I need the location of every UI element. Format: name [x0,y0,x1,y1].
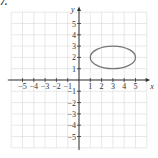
x-tick-label: −2 [52,82,61,91]
y-tick-label: −2 [67,99,76,108]
y-tick-label: −1 [67,87,76,96]
coordinate-plane: xy−5−4−3−2−112345−5−4−3−2−112345 [0,0,158,158]
y-tick-label: −5 [67,133,76,142]
x-tick-label: −5 [18,82,27,91]
x-tick-label: −4 [30,82,39,91]
y-arrow-icon [77,7,81,12]
y-tick-label: −3 [67,110,76,119]
x-tick-label: 1 [88,82,92,91]
y-tick-label: 3 [72,42,76,51]
x-tick-label: 2 [100,82,104,91]
x-tick-label: −3 [41,82,50,91]
y-tick-label: 4 [72,31,76,40]
x-tick-label: 3 [111,82,115,91]
x-tick-label: 4 [122,82,126,91]
y-tick-label: 2 [72,53,76,62]
y-tick-label: 1 [72,65,76,74]
y-tick-label: 5 [72,20,76,29]
y-axis-label: y [70,5,75,14]
y-tick-label: −4 [67,121,76,130]
x-axis-label: x [149,82,154,91]
x-tick-label: 5 [134,82,138,91]
